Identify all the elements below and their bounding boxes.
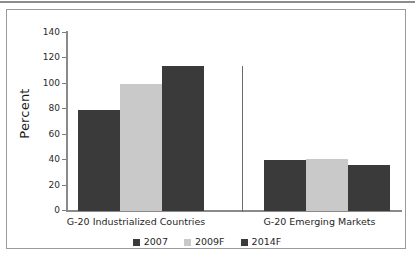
- legend-swatch-icon-2009F: [184, 239, 191, 246]
- legend-item-2007: 2007: [133, 237, 168, 247]
- bar-emerging-2014F: [348, 165, 390, 211]
- chart-frame: Percent 140 120 100 80 60 40 20 0: [6, 9, 406, 249]
- y-tick-0: 0: [27, 206, 60, 215]
- bar-emerging-2009F: [306, 159, 348, 211]
- y-tick-60: 60: [27, 130, 60, 139]
- x-category-label-emerging: G-20 Emerging Markets: [237, 216, 402, 227]
- bar-industrialized-2009F: [120, 84, 162, 211]
- bar-industrialized-2014F: [162, 66, 204, 211]
- legend-item-2014F: 2014F: [241, 237, 282, 247]
- legend-label-2014F: 2014F: [252, 237, 282, 247]
- chart-legend: 2007 2009F 2014F: [7, 237, 407, 247]
- y-tick-120: 120: [27, 53, 60, 62]
- y-tick-20: 20: [27, 181, 60, 190]
- legend-label-2007: 2007: [144, 237, 168, 247]
- legend-label-2009F: 2009F: [195, 237, 225, 247]
- legend-item-2009F: 2009F: [184, 237, 225, 247]
- x-category-label-industrialized: G-20 Industrialized Countries: [41, 216, 231, 227]
- y-tick-40: 40: [27, 155, 60, 164]
- chart-figure: Percent 140 120 100 80 60 40 20 0: [0, 0, 415, 257]
- bar-emerging-2007: [264, 160, 306, 211]
- plot-area: [66, 32, 400, 211]
- group-separator-line: [242, 66, 243, 212]
- bar-industrialized-2007: [78, 110, 120, 211]
- y-tick-140: 140: [27, 28, 60, 37]
- y-tick-100: 100: [27, 79, 60, 88]
- y-tick-80: 80: [27, 104, 60, 113]
- legend-swatch-icon-2014F: [241, 239, 248, 246]
- top-divider-rule: [0, 1, 415, 3]
- legend-swatch-icon-2007: [133, 239, 140, 246]
